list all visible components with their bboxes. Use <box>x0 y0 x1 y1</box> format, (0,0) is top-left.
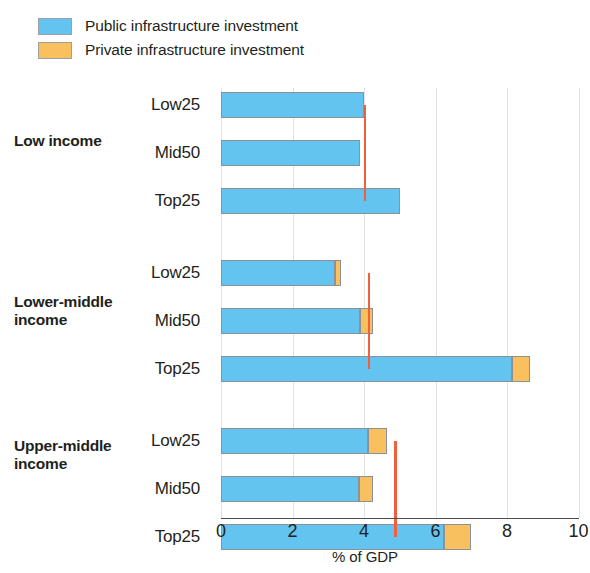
chart-root: Public infrastructure investment Private… <box>0 0 590 573</box>
x-axis-title: % of GDP <box>332 548 398 565</box>
bar-segment-public[interactable] <box>221 260 335 286</box>
gridline-10 <box>579 88 580 518</box>
x-tick-label-8: 8 <box>502 521 512 542</box>
x-axis-title-wrap: % of GDP <box>0 548 590 565</box>
bar-segment-public[interactable] <box>221 476 359 502</box>
bar-row[interactable] <box>221 140 360 166</box>
category-label-mid50: Mid50 <box>0 479 200 499</box>
bar-segment-private[interactable] <box>359 476 373 502</box>
category-labels: Low25Mid50Top25Low25Mid50Top25Low25Mid50… <box>0 88 212 518</box>
bar-row[interactable] <box>221 92 364 118</box>
category-label-top25: Top25 <box>0 527 200 547</box>
category-label-mid50: Mid50 <box>0 311 200 331</box>
median-reference-line <box>368 273 370 369</box>
legend-label-private: Private infrastructure investment <box>85 41 304 59</box>
category-label-top25: Top25 <box>0 191 200 211</box>
category-label-top25: Top25 <box>0 359 200 379</box>
bar-segment-public[interactable] <box>221 524 444 550</box>
x-tick-label-4: 4 <box>359 521 369 542</box>
legend-swatch-private-icon <box>38 42 72 59</box>
median-reference-line <box>364 105 366 201</box>
legend-item-public: Public infrastructure investment <box>38 14 304 38</box>
bar-segment-public[interactable] <box>221 188 400 214</box>
category-label-low25: Low25 <box>0 263 200 283</box>
legend-label-public: Public infrastructure investment <box>85 17 298 35</box>
bar-row[interactable] <box>221 260 341 286</box>
x-tick-label-2: 2 <box>287 521 297 542</box>
chart-legend: Public infrastructure investment Private… <box>38 14 304 62</box>
legend-item-private: Private infrastructure investment <box>38 38 304 62</box>
bar-row[interactable] <box>221 428 387 454</box>
category-label-low25: Low25 <box>0 95 200 115</box>
median-reference-line <box>394 441 396 537</box>
plot-area <box>221 88 579 518</box>
bar-segment-private[interactable] <box>335 260 340 286</box>
bar-segment-public[interactable] <box>221 428 368 454</box>
x-tick-label-10: 10 <box>568 521 588 542</box>
bar-row[interactable] <box>221 308 373 334</box>
gridline-6 <box>436 88 437 518</box>
x-tick-label-6: 6 <box>430 521 440 542</box>
legend-swatch-public-icon <box>38 18 72 35</box>
bar-segment-private[interactable] <box>512 356 530 382</box>
bar-row[interactable] <box>221 188 400 214</box>
bar-row[interactable] <box>221 356 530 382</box>
bar-row[interactable] <box>221 476 373 502</box>
x-tick-label-0: 0 <box>216 521 226 542</box>
bar-segment-private[interactable] <box>368 428 388 454</box>
x-axis-line <box>221 518 579 519</box>
bar-segment-public[interactable] <box>221 140 360 166</box>
category-label-low25: Low25 <box>0 431 200 451</box>
bar-segment-public[interactable] <box>221 308 360 334</box>
bar-segment-public[interactable] <box>221 92 364 118</box>
bar-segment-private[interactable] <box>444 524 471 550</box>
gridline-8 <box>507 88 508 518</box>
category-label-mid50: Mid50 <box>0 143 200 163</box>
